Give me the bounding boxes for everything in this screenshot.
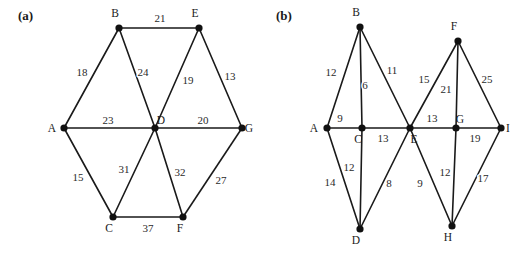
edge-weight-A-B: 12	[326, 66, 337, 78]
edge-weight-H-I: 17	[478, 172, 490, 184]
edge-weight-F-I: 25	[482, 73, 494, 85]
node-label-B: B	[111, 7, 119, 19]
edge-B-E	[360, 27, 410, 128]
node-label-A: A	[310, 122, 319, 134]
edge-weight-F-G: 27	[216, 174, 228, 186]
node-label-D: D	[157, 114, 165, 126]
node-I	[497, 124, 504, 131]
node-F	[179, 213, 186, 220]
node-B	[356, 23, 363, 30]
edge-weight-D-F: 32	[175, 166, 186, 178]
node-A	[323, 124, 330, 131]
node-H	[448, 222, 455, 229]
edge-weight-A-D: 14	[325, 176, 337, 188]
node-C	[358, 124, 365, 131]
edge-A-B	[64, 28, 119, 128]
edge-weight-A-C: 15	[73, 171, 85, 183]
node-D	[356, 225, 363, 232]
node-label-C: C	[105, 222, 113, 234]
edge-weight-E-G: 13	[427, 112, 439, 124]
edge-weight-B-E: 11	[387, 64, 398, 76]
panel-b: (b)1212661111991313141412128815152121252…	[276, 6, 510, 246]
node-label-F: F	[177, 222, 183, 234]
node-G	[452, 124, 459, 131]
edge-weight-D-G: 20	[198, 114, 210, 126]
panel-caption-b: (b)	[276, 8, 292, 23]
edge-weight-C-E: 13	[378, 132, 390, 144]
node-label-G: G	[456, 113, 464, 125]
edge-F-G	[183, 128, 242, 217]
node-label-B: B	[352, 6, 360, 18]
panel-caption-a: (a)	[18, 8, 33, 23]
edge-weight-E-G: 13	[225, 70, 237, 82]
node-label-A: A	[48, 122, 57, 134]
edge-weight-D-E: 8	[386, 177, 392, 189]
edge-weight-A-D: 23	[103, 114, 115, 126]
node-label-H: H	[444, 231, 452, 243]
edge-weight-C-D: 12	[344, 161, 355, 173]
edge-B-D	[119, 28, 155, 128]
node-E	[195, 24, 202, 31]
edge-B-C	[360, 27, 362, 128]
node-F	[454, 37, 461, 44]
edge-weight-F-G: 21	[441, 83, 452, 95]
node-E	[406, 124, 413, 131]
edge-weight-C-F: 37	[143, 222, 155, 234]
edge-G-H	[452, 128, 456, 226]
panel-a: (a)2121181824241919131323232020151531313…	[18, 7, 253, 234]
edge-weight-A-B: 18	[77, 66, 89, 78]
node-label-D: D	[352, 234, 360, 246]
node-label-E: E	[410, 133, 417, 145]
edge-weight-A-C: 9	[337, 112, 343, 124]
node-C	[109, 213, 116, 220]
node-label-C: C	[354, 133, 362, 145]
graph-figure: (a)2121181824241919131323232020151531313…	[0, 0, 524, 255]
edge-weight-B-C: 6	[362, 79, 368, 91]
edge-weight-C-D: 31	[119, 163, 130, 175]
node-label-F: F	[451, 20, 457, 32]
edge-E-G	[199, 28, 242, 128]
edge-weight-G-H: 12	[440, 166, 451, 178]
edge-weight-E-H: 9	[417, 177, 423, 189]
edge-F-I	[458, 41, 501, 128]
edge-weight-B-D: 24	[138, 66, 150, 78]
node-label-G: G	[245, 122, 253, 134]
edge-weight-E-F: 15	[419, 73, 431, 85]
edge-A-C	[64, 128, 113, 217]
node-label-E: E	[191, 7, 198, 19]
edge-weight-D-E: 19	[183, 74, 195, 86]
edge-weight-G-I: 19	[470, 132, 482, 144]
edge-weight-B-E: 21	[155, 12, 166, 24]
node-B	[115, 24, 122, 31]
graph-canvas: (a)2121181824241919131323232020151531313…	[0, 0, 524, 255]
node-label-I: I	[506, 122, 510, 134]
node-A	[60, 124, 67, 131]
